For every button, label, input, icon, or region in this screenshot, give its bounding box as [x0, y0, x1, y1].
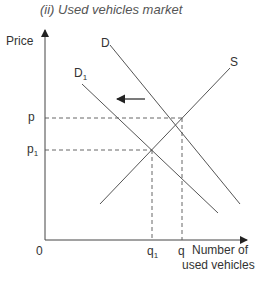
p1-label: p1 [27, 142, 38, 158]
origin-label: 0 [36, 244, 43, 258]
demand-shifted-label: D1 [74, 66, 87, 82]
q1-letter: q [147, 244, 154, 258]
supply-curve [100, 68, 230, 204]
p1-letter: p [27, 142, 34, 156]
demand-label: D [101, 36, 110, 50]
y-axis-label: Price [6, 34, 33, 48]
q-label: q [178, 244, 185, 258]
demand-curve [110, 45, 240, 204]
demand-curve-shifted [82, 84, 218, 213]
supply-label: S [230, 55, 238, 69]
p-label: p [28, 110, 35, 124]
demand-shifted-sub: 1 [83, 73, 87, 82]
x-axis-label-line1: Number of [192, 243, 248, 257]
demand-shifted-letter: D [74, 66, 83, 80]
p1-sub: 1 [34, 149, 38, 158]
q1-sub: 1 [154, 251, 158, 260]
market-diagram [0, 0, 263, 281]
x-axis-label-line2: used vehicles [182, 258, 255, 272]
q1-label: q1 [147, 244, 158, 260]
